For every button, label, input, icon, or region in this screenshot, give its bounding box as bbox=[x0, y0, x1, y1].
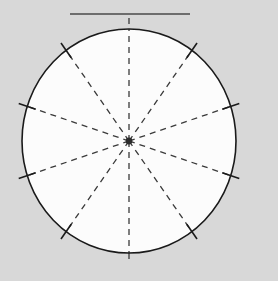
circle-spoke-diagram bbox=[0, 0, 278, 281]
figure-root: Circle with ten dashed radial spokes, ce… bbox=[0, 0, 278, 281]
center-dot bbox=[126, 138, 133, 145]
